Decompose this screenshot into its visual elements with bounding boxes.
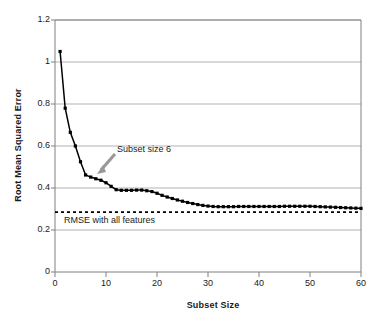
data-point: [324, 205, 327, 208]
data-point: [161, 194, 164, 197]
x-tick-label-30: 30: [193, 278, 223, 288]
data-point: [212, 205, 215, 208]
y-axis-title: Root Mean Squared Error: [13, 65, 23, 225]
data-point: [227, 205, 230, 208]
rmse-vs-subset-size-chart: [0, 0, 374, 323]
data-point: [308, 205, 311, 208]
x-axis-title: Subset Size: [55, 300, 371, 310]
data-point: [89, 175, 92, 178]
data-point: [252, 205, 255, 208]
x-tick-label-40: 40: [244, 278, 274, 288]
data-point: [110, 185, 113, 188]
data-point: [94, 177, 97, 180]
data-point: [206, 204, 209, 207]
y-tick-label-1.2: 1.2: [26, 14, 50, 24]
y-tick-label-0.6: 0.6: [26, 140, 50, 150]
data-point: [278, 205, 281, 208]
x-tick-label-60: 60: [346, 278, 374, 288]
data-point: [354, 207, 357, 210]
data-point: [314, 205, 317, 208]
data-point: [130, 189, 133, 192]
data-point: [79, 160, 82, 163]
data-point: [334, 206, 337, 209]
data-point: [268, 205, 271, 208]
data-point: [59, 50, 62, 53]
data-point: [145, 189, 148, 192]
data-point: [104, 181, 107, 184]
data-point: [222, 205, 225, 208]
data-point: [283, 205, 286, 208]
data-point: [171, 197, 174, 200]
y-tick-label-0: 0: [26, 266, 50, 276]
data-point: [339, 206, 342, 209]
data-point: [120, 189, 123, 192]
data-point: [125, 189, 128, 192]
x-tick-label-0: 0: [40, 278, 70, 288]
data-point: [69, 131, 72, 134]
annotation-subset-size-6: Subset size 6: [117, 144, 171, 154]
data-point: [247, 205, 250, 208]
x-axis-ticks: [55, 272, 361, 277]
data-point: [359, 207, 362, 210]
data-point: [273, 205, 276, 208]
annotation-rmse-all-features: RMSE with all features: [64, 215, 155, 225]
data-point: [242, 205, 245, 208]
data-point: [115, 188, 118, 191]
data-point: [64, 107, 67, 110]
data-point: [349, 206, 352, 209]
y-tick-label-1: 1: [26, 56, 50, 66]
data-point: [191, 202, 194, 205]
data-point: [288, 205, 291, 208]
data-point: [176, 198, 179, 201]
data-point: [74, 144, 77, 147]
data-point: [257, 205, 260, 208]
data-point: [135, 189, 138, 192]
y-tick-label-0.8: 0.8: [26, 98, 50, 108]
data-point: [237, 205, 240, 208]
data-point: [344, 206, 347, 209]
y-tick-label-0.2: 0.2: [26, 224, 50, 234]
chart-figure: 1.2 1 0.8 0.6 0.4 0.2 0 0 10 20 30 40 50…: [0, 0, 374, 323]
data-point: [298, 205, 301, 208]
data-point: [263, 205, 266, 208]
data-point: [84, 173, 87, 176]
data-point: [99, 179, 102, 182]
x-tick-label-50: 50: [295, 278, 325, 288]
x-tick-label-10: 10: [91, 278, 121, 288]
data-point: [303, 205, 306, 208]
y-axis-ticks: [51, 20, 55, 272]
data-point: [201, 204, 204, 207]
data-point: [217, 205, 220, 208]
data-point: [232, 205, 235, 208]
data-point: [186, 201, 189, 204]
data-point: [196, 203, 199, 206]
data-point: [329, 206, 332, 209]
data-point: [166, 195, 169, 198]
x-tick-label-20: 20: [142, 278, 172, 288]
data-point: [140, 189, 143, 192]
y-tick-label-0.4: 0.4: [26, 182, 50, 192]
data-point: [319, 205, 322, 208]
data-point: [293, 205, 296, 208]
data-point: [181, 200, 184, 203]
data-point: [155, 192, 158, 195]
data-point: [150, 190, 153, 193]
